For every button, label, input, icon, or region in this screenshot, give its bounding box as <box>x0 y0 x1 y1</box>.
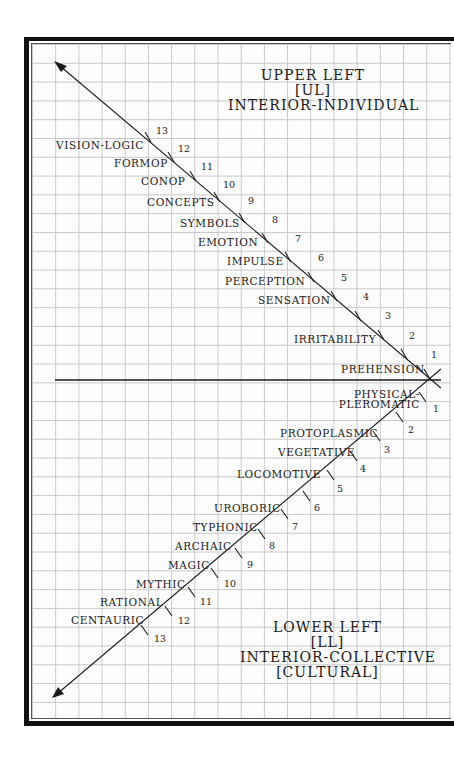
upper-num-12: 12 <box>178 144 190 154</box>
upper-title-line-3: INTERIOR-INDIVIDUAL <box>228 98 398 113</box>
lower-label-magic: MAGIC <box>168 560 210 571</box>
lower-title-line-4: [CULTURAL] <box>240 665 415 680</box>
lower-label-protoplasmic: PROTOPLASMIC <box>280 428 378 439</box>
lower-title-line-1: LOWER LEFT <box>240 620 415 635</box>
lower-title-line-2: [LL] <box>240 635 415 650</box>
lower-num-5: 5 <box>337 484 343 494</box>
lower-num-2: 2 <box>408 425 414 435</box>
upper-num-9: 9 <box>248 196 254 206</box>
lower-title-line-3: INTERIOR-COLLECTIVE <box>240 650 415 665</box>
lower-num-9: 9 <box>247 560 253 570</box>
upper-label-vision-logic: VISION-LOGIC <box>56 140 144 151</box>
upper-num-13: 13 <box>156 126 168 136</box>
lower-num-13: 13 <box>154 634 166 644</box>
lower-num-6: 6 <box>314 503 320 513</box>
upper-label-prehension: PREHENSION <box>341 364 425 375</box>
lower-label-pleromatic: PLEROMATIC <box>332 399 420 409</box>
upper-title-line-2: [UL] <box>228 83 398 98</box>
lower-quadrant-title: LOWER LEFT [LL] INTERIOR-COLLECTIVE [CUL… <box>240 620 415 680</box>
lower-arrowhead-icon <box>52 687 64 698</box>
upper-num-4: 4 <box>363 292 369 302</box>
lower-label-typhonic: TYPHONIC <box>193 522 258 533</box>
lower-label-rational: RATIONAL <box>100 597 163 608</box>
upper-label-impulse: IMPULSE <box>227 256 284 267</box>
upper-label-emotion: EMOTION <box>198 237 258 248</box>
lower-label-archaic: ARCHAIC <box>175 541 232 552</box>
upper-num-6: 6 <box>318 253 324 263</box>
upper-num-10: 10 <box>223 180 235 190</box>
upper-label-perception: PERCEPTION <box>225 276 305 287</box>
lower-label-vegetative: VEGETATIVE <box>278 447 355 458</box>
lower-num-11: 11 <box>200 597 212 607</box>
upper-num-5: 5 <box>341 273 347 283</box>
lower-label-physical-pleromatic: PHYSICAL- PLEROMATIC <box>332 389 420 409</box>
lower-label-locomotive: LOCOMOTIVE <box>237 469 321 480</box>
upper-num-7: 7 <box>295 234 301 244</box>
lower-label-mythic: MYTHIC <box>136 579 186 590</box>
upper-label-symbols: SYMBOLS <box>180 218 240 229</box>
upper-num-1: 1 <box>431 350 437 360</box>
upper-label-sensation: SENSATION <box>258 295 331 306</box>
upper-label-irritability: IRRITABILITY <box>294 334 376 345</box>
upper-num-2: 2 <box>409 331 415 341</box>
lower-num-8: 8 <box>269 541 275 551</box>
lower-num-7: 7 <box>292 522 298 532</box>
upper-num-8: 8 <box>272 215 278 225</box>
upper-quadrant-title: UPPER LEFT [UL] INTERIOR-INDIVIDUAL <box>228 68 398 113</box>
lower-num-12: 12 <box>178 616 190 626</box>
lower-num-4: 4 <box>360 464 366 474</box>
lower-num-10: 10 <box>224 579 236 589</box>
lower-label-centauric: CENTAURIC <box>71 615 144 626</box>
lower-num-1: 1 <box>433 404 439 414</box>
lower-label-uroboric: UROBORIC <box>214 503 281 514</box>
upper-label-conop: CONOP <box>141 176 186 187</box>
upper-label-formop: FORMOP <box>114 158 168 169</box>
upper-num-3: 3 <box>385 311 391 321</box>
upper-label-concepts: CONCEPTS <box>147 197 215 208</box>
upper-num-11: 11 <box>201 162 213 172</box>
lower-num-3: 3 <box>384 445 390 455</box>
upper-title-line-1: UPPER LEFT <box>228 68 398 83</box>
